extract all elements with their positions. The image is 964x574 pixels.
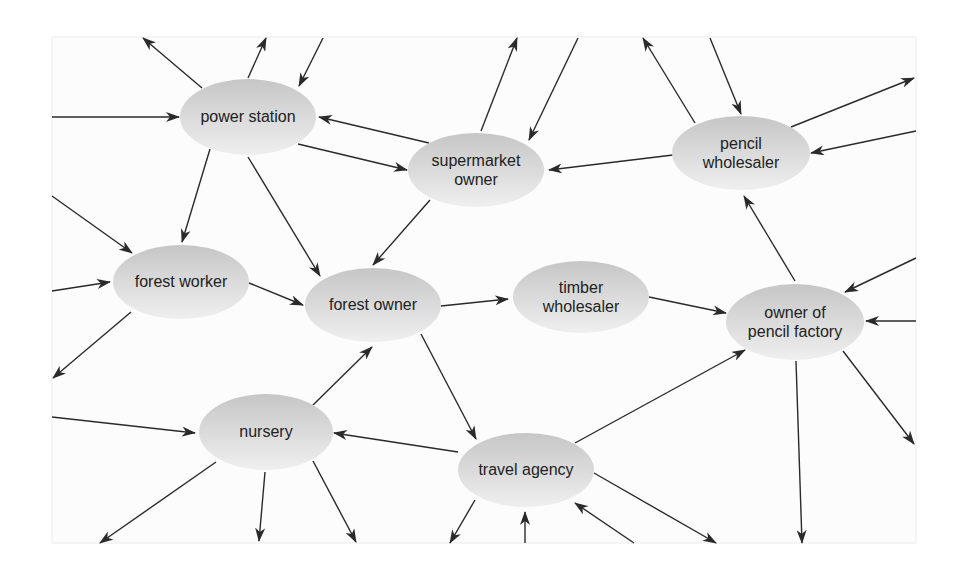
- node-label: supermarket: [432, 152, 521, 169]
- node-label: pencil factory: [748, 323, 842, 340]
- concept-diagram: power stationsupermarketownerpencilwhole…: [0, 0, 964, 574]
- node-label: nursery: [239, 423, 292, 440]
- node-forest-owner[interactable]: forest owner: [305, 268, 441, 342]
- node-label: forest worker: [135, 273, 228, 290]
- node-timber-wholesaler[interactable]: timberwholesaler: [513, 261, 649, 333]
- node-label: power station: [200, 108, 295, 125]
- node-label: owner: [454, 171, 498, 188]
- node-label: pencil: [720, 135, 762, 152]
- node-label: forest owner: [329, 296, 418, 313]
- node-power-station[interactable]: power station: [180, 79, 316, 155]
- node-travel-agency[interactable]: travel agency: [458, 433, 594, 507]
- node-nursery[interactable]: nursery: [199, 394, 333, 470]
- node-label: wholesaler: [702, 154, 780, 171]
- node-label: owner of: [764, 304, 826, 321]
- node-owner-of-pencil-factory[interactable]: owner ofpencil factory: [726, 284, 864, 360]
- node-supermarket-owner[interactable]: supermarketowner: [408, 133, 544, 207]
- node-forest-worker[interactable]: forest worker: [113, 245, 249, 319]
- node-label: travel agency: [478, 461, 573, 478]
- node-label: timber: [559, 279, 604, 296]
- node-pencil-wholesaler[interactable]: pencilwholesaler: [672, 116, 810, 190]
- node-label: wholesaler: [542, 298, 620, 315]
